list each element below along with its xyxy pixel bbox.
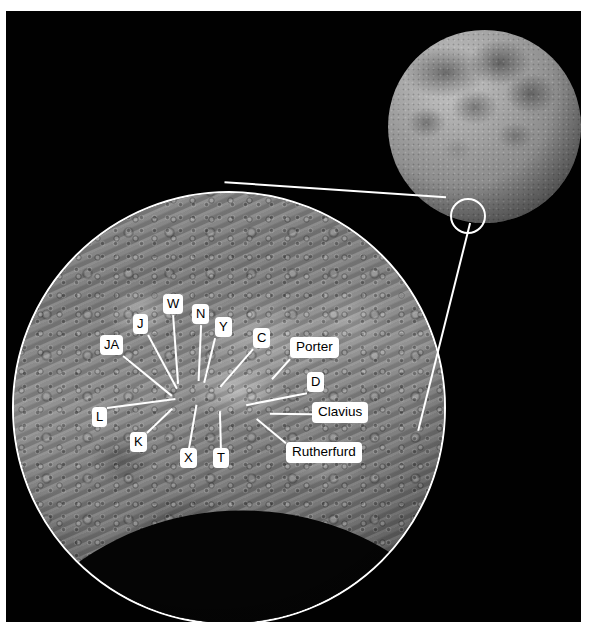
- annotation-label-porter: Porter: [290, 337, 339, 358]
- lunar-annotated-figure: JAJWNYCPorterDClaviusRutherfurdLKXT: [0, 0, 590, 631]
- annotation-label-c: C: [253, 328, 270, 348]
- magnified-inset: [12, 191, 446, 622]
- photo-panel: JAJWNYCPorterDClaviusRutherfurdLKXT: [6, 11, 581, 622]
- annotation-leader-clavius: [270, 412, 312, 415]
- annotation-label-y: Y: [215, 317, 232, 337]
- annotation-label-x: X: [180, 448, 197, 468]
- annotation-label-rutherfurd: Rutherfurd: [286, 442, 362, 463]
- annotation-label-d: D: [307, 372, 324, 392]
- annotation-label-w: W: [163, 294, 183, 314]
- annotation-label-n: N: [192, 304, 209, 324]
- annotation-label-t: T: [213, 448, 229, 468]
- annotation-label-clavius: Clavius: [312, 402, 368, 423]
- annotation-label-ja: JA: [100, 335, 123, 355]
- annotation-label-j: J: [133, 314, 148, 334]
- annotation-label-l: L: [92, 407, 107, 427]
- inset-rim-vignette: [12, 191, 446, 622]
- annotation-label-k: K: [130, 432, 147, 452]
